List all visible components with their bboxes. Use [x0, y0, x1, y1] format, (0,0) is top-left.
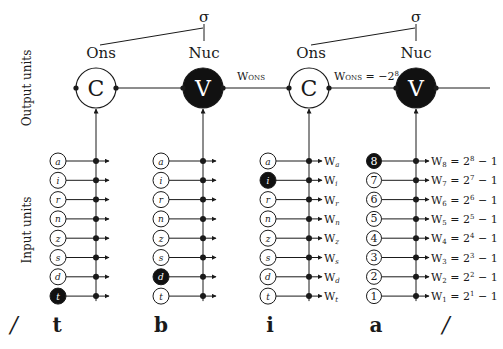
- input-unit-8: 8W8 = 28 − 1: [367, 154, 498, 170]
- input-unit-label: d: [158, 272, 164, 282]
- weight-label-ons-1: WONS: [237, 70, 265, 83]
- connection-dot: [220, 85, 225, 90]
- input-unit-n: nWn: [260, 211, 340, 227]
- junction-dot: [306, 197, 312, 203]
- junction-dot: [413, 158, 419, 164]
- input-unit-label: t: [56, 292, 60, 302]
- input-unit-s: sWs: [260, 250, 339, 266]
- junction-dot: [306, 255, 312, 261]
- junction-dot: [413, 197, 419, 203]
- junction-dot: [200, 177, 206, 183]
- output-node-label: C: [88, 76, 105, 101]
- junction-dot: [200, 216, 206, 222]
- input-unit-label: z: [55, 234, 61, 244]
- weight-label: Wt: [324, 290, 338, 304]
- weight-label: W5 = 25 − 1: [431, 213, 498, 227]
- syllable-root: σ: [411, 8, 421, 26]
- segment-label-i: i: [266, 313, 274, 337]
- input-unit-z: zWz: [260, 230, 339, 246]
- input-unit-label: 6: [371, 193, 378, 206]
- junction-dot: [200, 235, 206, 241]
- input-unit-label: z: [265, 234, 271, 244]
- input-unit-t: t: [50, 288, 109, 304]
- input-unit-label: n: [265, 214, 271, 224]
- input-unit-i: iWi: [260, 172, 338, 188]
- junction-dot: [413, 216, 419, 222]
- connection-dot: [180, 85, 185, 90]
- input-unit-n: n: [153, 211, 216, 227]
- input-unit-label: n: [158, 214, 164, 224]
- input-unit-label: a: [158, 157, 163, 167]
- input-unit-label: s: [159, 253, 164, 263]
- junction-dot: [200, 255, 206, 261]
- input-unit-label: 1: [371, 290, 378, 303]
- output-node-label: V: [194, 76, 212, 101]
- input-unit-r: r: [153, 192, 216, 208]
- input-unit-label: 8: [371, 155, 378, 168]
- input-unit-5: 5W5 = 25 − 1: [367, 211, 498, 227]
- weight-label: W3 = 23 − 1: [431, 252, 498, 266]
- input-unit-a: aWa: [260, 153, 340, 169]
- junction-dot: [200, 158, 206, 164]
- input-unit-d: d: [153, 269, 216, 285]
- input-unit-4: 4W4 = 24 − 1: [367, 231, 498, 247]
- input-unit-label: i: [57, 176, 60, 186]
- segment-label-t: t: [52, 313, 62, 337]
- input-unit-label: z: [158, 234, 164, 244]
- connection-dot: [286, 85, 291, 90]
- junction-dot: [200, 197, 206, 203]
- junction-dot: [306, 216, 312, 222]
- junction-dot: [413, 274, 419, 280]
- junction-dot: [306, 274, 312, 280]
- input-unit-d: d: [50, 269, 109, 285]
- input-column-i: aWaiWirWrnWnzWzsWsdWdtWt: [260, 109, 340, 304]
- input-unit-label: s: [266, 253, 271, 263]
- weight-label: Wa: [324, 155, 340, 169]
- input-unit-label: r: [56, 195, 61, 205]
- input-unit-z: z: [50, 230, 109, 246]
- junction-dot: [306, 177, 312, 183]
- weight-label-ons-2: WONS = −28: [334, 70, 399, 83]
- output-node-label: V: [407, 76, 425, 101]
- weight-label: W1 = 21 − 1: [431, 290, 498, 304]
- junction-dot: [306, 293, 312, 299]
- input-unit-label: s: [56, 253, 61, 263]
- tree-branch-onset: [311, 28, 415, 45]
- syllable-tree-2: σ Ons Nuc: [296, 8, 431, 62]
- input-unit-label: i: [160, 176, 163, 186]
- input-unit-6: 6W6 = 26 − 1: [367, 192, 498, 208]
- weight-label: Wi: [324, 174, 338, 188]
- input-unit-2: 2W2 = 22 − 1: [367, 269, 498, 285]
- input-unit-n: n: [50, 211, 109, 227]
- junction-dot: [93, 235, 99, 241]
- input-column-t: airnzsdt: [50, 109, 109, 304]
- junction-dot: [306, 235, 312, 241]
- output-node-label: C: [301, 76, 318, 101]
- junction-dot: [200, 274, 206, 280]
- junction-dot: [306, 158, 312, 164]
- junction-dot: [413, 255, 419, 261]
- junction-dot: [413, 293, 419, 299]
- weight-label: W4 = 24 − 1: [431, 232, 498, 246]
- connection-dot: [393, 85, 398, 90]
- input-unit-label: n: [55, 214, 61, 224]
- input-unit-i: i: [50, 172, 109, 188]
- input-units-label: Input units: [20, 197, 34, 264]
- weight-label: Wz: [324, 232, 339, 246]
- input-unit-s: s: [50, 250, 109, 266]
- junction-dot: [93, 216, 99, 222]
- input-unit-t: t: [153, 288, 216, 304]
- segment-labels: tbia: [52, 313, 382, 337]
- input-unit-label: 7: [371, 174, 378, 187]
- junction-dot: [93, 293, 99, 299]
- weight-label: Wr: [324, 194, 339, 208]
- input-unit-label: r: [159, 195, 164, 205]
- junction-dot: [93, 255, 99, 261]
- input-unit-label: i: [267, 176, 270, 186]
- input-unit-r: r: [50, 192, 109, 208]
- junction-dot: [93, 177, 99, 183]
- segment-label-a: a: [370, 313, 383, 337]
- input-unit-label: 5: [371, 212, 378, 225]
- input-unit-label: a: [55, 157, 60, 167]
- input-unit-a: a: [50, 153, 109, 169]
